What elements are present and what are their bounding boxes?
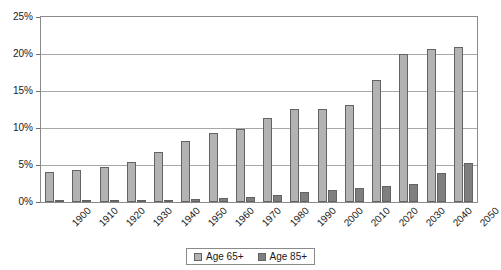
bar-group [259,17,286,202]
y-axis: 0%5%10%15%20%25% [0,16,36,203]
bar-age85-2000 [328,190,337,202]
y-axis-tick-label: 15% [13,86,33,96]
x-axis-tick-label: 1920 [124,205,148,229]
bar-group [177,17,204,202]
bar-group [205,17,232,202]
y-axis-tick [36,17,40,18]
x-axis-tick-label: 2030 [423,205,447,229]
legend-swatch-icon [194,253,202,261]
x-axis-tick-label: 1960 [233,205,257,229]
bar-age65-2000 [318,109,327,202]
x-axis: 1900191019201930194019501960197019801990… [41,203,477,243]
bar-age65-2020 [372,80,381,202]
x-axis-tick-label: 1970 [260,205,284,229]
legend-swatch-icon [258,253,266,261]
bar-group [450,17,477,202]
bar-group [96,17,123,202]
bar-age85-1950 [191,199,200,202]
bar-age85-1970 [246,197,255,202]
x-axis-tick-label: 2050 [478,205,501,229]
x-axis-tick-label: 2040 [451,205,475,229]
bar-group [232,17,259,202]
bar-group [286,17,313,202]
bar-group [150,17,177,202]
y-axis-tick [36,202,40,203]
x-axis-tick-label: 1980 [287,205,311,229]
y-axis-tick [36,165,40,166]
y-axis-tick [36,91,40,92]
bar-age65-1920 [100,167,109,202]
bar-age85-2020 [382,186,391,202]
legend-label: Age 85+ [270,252,308,262]
legend-item: Age 85+ [258,252,308,262]
bar-age85-1990 [300,192,309,202]
bar-age85-1930 [137,200,146,202]
bars-layer [41,17,477,202]
bar-age65-2030 [399,54,408,202]
x-axis-tick-label: 2000 [342,205,366,229]
bar-age85-2050 [464,163,473,202]
bar-age85-1920 [110,200,119,202]
bar-age85-1980 [273,195,282,202]
bar-age65-2040 [427,49,436,202]
bar-age65-1910 [72,170,81,202]
y-axis-tick [36,54,40,55]
bar-age85-1940 [164,200,173,202]
bar-age85-1900 [55,200,64,202]
bar-group [41,17,68,202]
x-axis-tick-label: 1930 [151,205,175,229]
bar-age85-2040 [437,173,446,202]
bar-age65-1900 [45,172,54,202]
legend-item: Age 65+ [194,252,244,262]
bar-age65-1960 [209,133,218,202]
y-axis-tick-label: 0% [19,197,33,207]
bar-group [123,17,150,202]
bar-age65-2050 [454,47,463,202]
y-axis-tick-label: 20% [13,49,33,59]
y-axis-tick-label: 5% [19,160,33,170]
bar-age65-1980 [263,118,272,202]
y-axis-tick-label: 10% [13,123,33,133]
bar-age85-2010 [355,188,364,202]
x-axis-tick-label: 2010 [369,205,393,229]
bar-group [395,17,422,202]
bar-age65-1950 [181,141,190,202]
x-axis-tick-label: 1950 [205,205,229,229]
bar-age85-1960 [219,198,228,202]
bar-group [68,17,95,202]
bar-age65-1930 [127,162,136,202]
y-axis-tick-label: 25% [13,12,33,22]
y-axis-tick [36,128,40,129]
chart-legend: Age 65+Age 85+ [186,248,315,265]
bar-group [341,17,368,202]
bar-group [368,17,395,202]
bar-group [314,17,341,202]
x-axis-tick-label: 1910 [96,205,120,229]
bar-age65-2010 [345,105,354,202]
x-axis-tick-label: 1990 [314,205,338,229]
x-axis-tick-label: 1900 [69,205,93,229]
bar-age65-1970 [236,129,245,202]
bar-age65-1990 [290,109,299,202]
bar-group [423,17,450,202]
bar-age85-2030 [409,184,418,202]
bar-age85-1910 [82,200,91,202]
legend-label: Age 65+ [206,252,244,262]
x-axis-tick-label: 2020 [396,205,420,229]
bar-age65-1940 [154,152,163,202]
x-axis-tick-label: 1940 [178,205,202,229]
